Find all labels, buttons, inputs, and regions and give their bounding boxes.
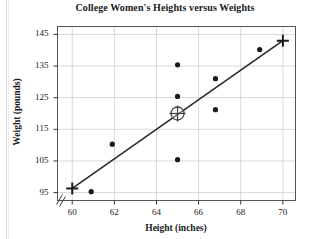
y-tick-label: 115 bbox=[25, 123, 49, 133]
data-point bbox=[175, 157, 180, 162]
y-tick-label: 135 bbox=[25, 60, 49, 70]
x-tick-label: 70 bbox=[272, 207, 294, 217]
data-point bbox=[175, 62, 180, 67]
x-tick-label: 68 bbox=[230, 207, 252, 217]
x-tick-label: 62 bbox=[103, 207, 125, 217]
data-point bbox=[257, 47, 262, 52]
chart-figure: College Women's Heights versus Weights W… bbox=[0, 0, 316, 239]
data-point bbox=[110, 142, 115, 147]
plus-marker-icon bbox=[277, 35, 289, 47]
x-tick-label: 64 bbox=[145, 207, 167, 217]
data-point bbox=[175, 94, 180, 99]
y-tick-label: 95 bbox=[25, 187, 49, 197]
data-point bbox=[89, 189, 94, 194]
data-point bbox=[213, 107, 218, 112]
x-tick-label: 60 bbox=[61, 207, 83, 217]
y-tick-label: 145 bbox=[25, 28, 49, 38]
y-tick-label: 125 bbox=[25, 92, 49, 102]
data-point bbox=[213, 76, 218, 81]
x-tick-label: 66 bbox=[188, 207, 210, 217]
axis-ticks bbox=[54, 34, 283, 204]
y-tick-label: 105 bbox=[25, 155, 49, 165]
